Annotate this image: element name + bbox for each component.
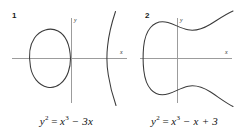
equation-1-lhs-exp: 2	[45, 114, 49, 122]
equation-2-lhs-exp: 2	[156, 114, 160, 122]
plot-2-canvas: y x	[133, 0, 236, 113]
equation-2-rhs-exp: 3	[176, 114, 180, 122]
equation-2: y2=x3 − x + 3	[133, 115, 236, 127]
plot-1-canvas: y x	[0, 0, 133, 113]
equation-2-rhs-rest: − x + 3	[183, 115, 218, 127]
equation-2-lhs: y2	[151, 115, 161, 127]
equation-1-rhs-exp: 3	[65, 114, 69, 122]
equation-2-rhs: x3 − x + 3	[170, 115, 218, 127]
x-axis-label-2: x	[224, 49, 228, 55]
equation-2-equals: =	[161, 115, 170, 127]
equation-1-rhs: x3 − 3x	[59, 115, 93, 127]
equation-1: y2=x3 − 3x	[0, 115, 133, 127]
equation-1-equals: =	[50, 115, 59, 127]
elliptic-curve-figure: 1 y x y2=x3 − 3x 2 y	[0, 0, 236, 133]
graph-panel-2: 2 y x y2=x3 − x + 3	[133, 0, 236, 133]
graph-panel-1: 1 y x y2=x3 − 3x	[0, 0, 133, 133]
equation-1-lhs: y2	[40, 115, 50, 127]
y-axis-label-1: y	[73, 17, 77, 23]
equation-1-rhs-rest: − 3x	[72, 115, 93, 127]
x-axis-label-1: x	[119, 49, 123, 55]
y-axis-label-2: y	[179, 17, 183, 23]
